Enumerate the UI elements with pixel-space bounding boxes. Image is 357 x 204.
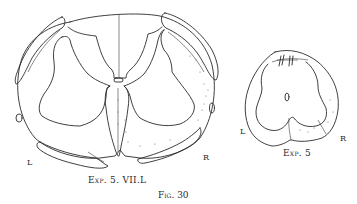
right-section-side-right-label: R bbox=[340, 134, 346, 143]
spinal-cord-section-left bbox=[0, 0, 240, 175]
left-section-side-left-label: L bbox=[27, 158, 32, 167]
right-section-side-left-label: L bbox=[240, 127, 245, 136]
right-section-caption: Exp. 5 bbox=[283, 148, 311, 158]
figure-30: L R Exp. 5. VII.L Fig. 30 L R Exp. 5 bbox=[0, 0, 357, 204]
left-section-caption: Exp. 5. VII.L bbox=[88, 175, 146, 185]
figure-number-label: Fig. 30 bbox=[158, 190, 189, 200]
left-section-side-right-label: R bbox=[203, 153, 209, 162]
